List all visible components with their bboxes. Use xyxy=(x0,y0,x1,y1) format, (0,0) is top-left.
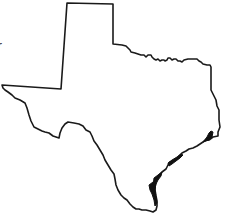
matagorda-coast-detail xyxy=(168,154,183,166)
galveston-bay-detail xyxy=(203,131,213,142)
texas-state-outline xyxy=(2,3,220,212)
texas-map xyxy=(0,0,225,218)
padre-island-detail xyxy=(149,182,157,206)
